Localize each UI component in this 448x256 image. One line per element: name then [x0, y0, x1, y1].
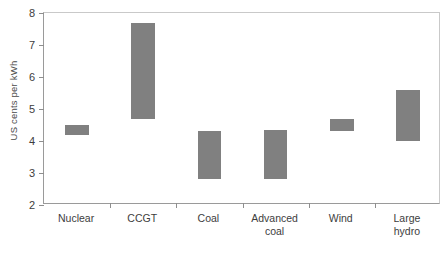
bar [131, 23, 155, 119]
x-axis-label: Largehydro [374, 212, 440, 237]
bar [198, 131, 222, 179]
x-axis-label-line: Coal [175, 212, 241, 225]
x-axis-label: Advancedcoal [242, 212, 308, 237]
x-axis-label-line: CCGT [109, 212, 175, 225]
x-axis-label-line: Large [374, 212, 440, 225]
y-axis-tick-label: 4 [29, 135, 39, 147]
y-axis-tick: 5 [29, 103, 44, 115]
y-axis-tick-mark [39, 77, 44, 78]
x-axis-label: Coal [175, 212, 241, 225]
x-axis-label-line: Wind [308, 212, 374, 225]
y-axis-tick-mark [39, 141, 44, 142]
y-axis-tick-label: 2 [29, 199, 39, 211]
chart-container: US cents per kWh 2345678 NuclearCCGTCoal… [0, 0, 448, 256]
plot-area: 2345678 [43, 12, 440, 204]
y-axis-tick-label: 8 [29, 7, 39, 19]
y-axis-tick: 2 [29, 199, 44, 211]
y-axis-tick-mark [39, 173, 44, 174]
x-axis-label-line: hydro [374, 225, 440, 238]
y-axis-tick: 4 [29, 135, 44, 147]
y-axis-tick: 6 [29, 71, 44, 83]
y-axis-tick-mark [39, 13, 44, 14]
x-axis-label: Nuclear [43, 212, 109, 225]
x-axis-tick-mark [176, 203, 177, 208]
y-axis-tick-mark [39, 205, 44, 206]
y-axis-tick-mark [39, 109, 44, 110]
x-axis-tick-mark [375, 203, 376, 208]
x-axis-label: Wind [308, 212, 374, 225]
y-axis-tick-mark [39, 45, 44, 46]
bar [396, 90, 420, 141]
x-axis-tick-mark [110, 203, 111, 208]
x-axis-label-line: Advanced [242, 212, 308, 225]
y-axis-tick: 3 [29, 167, 44, 179]
x-axis-tick-mark [243, 203, 244, 208]
y-axis-tick: 7 [29, 39, 44, 51]
y-axis-tick-label: 5 [29, 103, 39, 115]
x-axis-label: CCGT [109, 212, 175, 225]
bar [264, 130, 288, 180]
y-axis-tick-label: 7 [29, 39, 39, 51]
x-axis-tick-mark [309, 203, 310, 208]
y-axis-tick: 8 [29, 7, 44, 19]
x-axis-label-line: Nuclear [43, 212, 109, 225]
y-axis-title: US cents per kWh [8, 26, 19, 176]
bar [330, 119, 354, 132]
bar [65, 125, 89, 135]
y-axis-tick-label: 6 [29, 71, 39, 83]
y-axis-tick-label: 3 [29, 167, 39, 179]
x-axis-label-line: coal [242, 225, 308, 238]
